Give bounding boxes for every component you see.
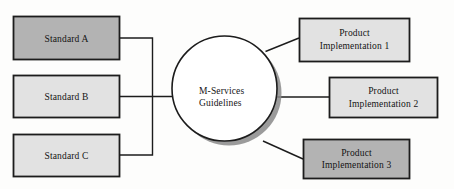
hub-node[interactable]: M-Services Guidelines xyxy=(172,36,282,146)
product-implementation-2-label-line-1: Product xyxy=(368,86,399,96)
connector-standard-a-to-hub xyxy=(120,38,153,97)
standard-c-label: Standard C xyxy=(45,151,89,161)
product-implementation-3-box[interactable] xyxy=(304,140,410,179)
standard-b-node[interactable]: Standard B xyxy=(14,76,120,118)
hub-label-line-1: M-Services xyxy=(199,86,244,96)
product-implementation-1-label-line-2: Implementation 1 xyxy=(320,41,390,51)
product-implementation-3-node[interactable]: Product Implementation 3 xyxy=(304,140,410,179)
standard-a-label: Standard A xyxy=(45,34,89,44)
connector-hub-to-product-implementation-3 xyxy=(263,141,303,159)
hub-label-line-2: Guidelines xyxy=(199,98,242,108)
product-implementation-2-label-line-2: Implementation 2 xyxy=(349,99,419,109)
product-implementation-1-label-line-1: Product xyxy=(339,28,370,38)
diagram-canvas: Standard A Standard B Standard C M-Servi… xyxy=(0,0,454,189)
product-implementation-1-node[interactable]: Product Implementation 1 xyxy=(300,19,410,62)
diagram-svg: Standard A Standard B Standard C M-Servi… xyxy=(0,0,454,189)
standard-a-node[interactable]: Standard A xyxy=(14,17,120,60)
standard-c-node[interactable]: Standard C xyxy=(14,135,120,177)
connector-standard-c-to-hub xyxy=(120,97,153,155)
product-implementation-2-box[interactable] xyxy=(330,78,438,118)
standard-b-label: Standard B xyxy=(45,92,89,102)
product-implementation-3-label-line-2: Implementation 3 xyxy=(322,160,392,170)
connector-hub-to-product-implementation-1 xyxy=(266,38,300,52)
product-implementation-3-label-line-1: Product xyxy=(341,148,372,158)
product-implementation-2-node[interactable]: Product Implementation 2 xyxy=(330,78,438,118)
